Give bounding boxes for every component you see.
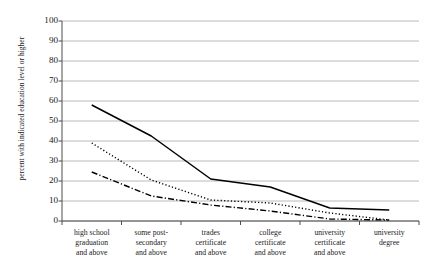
y-tick-label-60: 60 [34,96,58,105]
y-tick-label-50: 50 [34,116,58,125]
x-category-label-line: and above [181,248,241,258]
y-tick-label-100: 100 [34,16,58,25]
x-category-label-1: some post-secondaryand above [122,228,182,258]
x-category-label-line: graduation [62,238,122,248]
series-dash-dot [92,172,390,220]
x-category-label-line: and above [241,248,301,258]
y-axis-tick-labels: 1009080706050403020100 [31,21,58,221]
x-category-label-line: certificate [181,238,241,248]
x-category-label-3: collegecertificateand above [241,228,301,258]
x-category-label-line: university [360,228,420,238]
x-category-label-line: certificate [241,238,301,248]
y-axis-title: percent with indicated education level o… [17,24,26,194]
x-category-label-line: and above [62,248,122,258]
x-axis-category-labels: high schoolgraduationand abovesome post-… [62,228,419,268]
y-tick-label-80: 80 [34,56,58,65]
x-category-label-line: secondary [122,238,182,248]
x-category-label-5: universitydegree [360,228,420,248]
x-category-label-line: college [241,228,301,238]
y-tick-label-40: 40 [34,136,58,145]
plot-canvas [62,21,419,221]
y-tick-label-0: 0 [34,216,58,225]
x-category-label-line: and above [300,248,360,258]
x-category-label-0: high schoolgraduationand above [62,228,122,258]
line-chart: percent with indicated education level o… [0,0,429,269]
y-tick-label-10: 10 [34,196,58,205]
x-category-label-line: some post- [122,228,182,238]
x-category-label-line: university [300,228,360,238]
y-tick-label-20: 20 [34,176,58,185]
y-tick-label-30: 30 [34,156,58,165]
x-category-label-4: universitycertificateand above [300,228,360,258]
y-tick-label-90: 90 [34,36,58,45]
x-category-label-line: trades [181,228,241,238]
y-tick-label-70: 70 [34,76,58,85]
top-edge-artifact [97,0,153,8]
x-category-label-line: high school [62,228,122,238]
x-category-label-line: degree [360,238,420,248]
x-category-label-line: certificate [300,238,360,248]
x-category-label-line: and above [122,248,182,258]
x-category-label-2: tradescertificateand above [181,228,241,258]
plot-area [62,21,419,221]
